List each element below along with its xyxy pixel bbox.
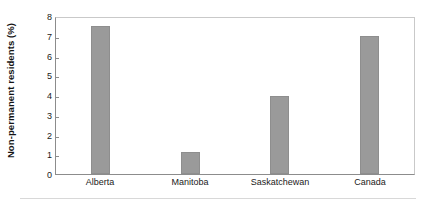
bar (360, 36, 379, 174)
bar (91, 26, 110, 174)
y-axis-tick-mark (56, 117, 59, 118)
x-axis-tick-label: Saskatchewan (235, 178, 325, 187)
y-axis-tick-label: 4 (47, 92, 52, 101)
y-axis-tick-label: 7 (47, 32, 52, 41)
x-axis-tick-label: Canada (325, 178, 415, 187)
y-axis-tick-label: 0 (47, 171, 52, 180)
y-axis-tick-mark (56, 137, 59, 138)
bar-slot (325, 18, 415, 174)
bar (270, 96, 289, 174)
footer-divider (20, 198, 416, 199)
y-axis-tick-label: 6 (47, 52, 52, 61)
bar-series (56, 18, 414, 174)
y-axis-tick-mark (56, 97, 59, 98)
bar-slot (235, 18, 325, 174)
x-axis-tick-label: Alberta (55, 178, 145, 187)
y-axis-tick-label: 2 (47, 131, 52, 140)
plot-area (55, 17, 415, 175)
y-axis-tick-label: 1 (47, 151, 52, 160)
x-axis-tick-labels: AlbertaManitobaSaskatchewanCanada (55, 178, 415, 187)
bar-slot (56, 18, 146, 174)
bar (181, 152, 200, 174)
y-axis-tick-label: 5 (47, 72, 52, 81)
y-axis-tick-label: 3 (47, 111, 52, 120)
bar-chart-figure: Non-permanent residents (%) 876543210 Al… (0, 0, 430, 207)
y-axis-tick-mark (56, 58, 59, 59)
y-axis-tick-labels: 876543210 (38, 17, 52, 175)
y-axis-tick-mark (56, 156, 59, 157)
y-axis-title-text: Non-permanent residents (%) (6, 22, 17, 157)
y-axis-tick-label: 8 (47, 13, 52, 22)
bar-slot (146, 18, 236, 174)
y-axis-tick-mark (56, 77, 59, 78)
y-axis-title: Non-permanent residents (%) (0, 0, 22, 180)
y-axis-tick-mark (56, 38, 59, 39)
x-axis-tick-label: Manitoba (145, 178, 235, 187)
